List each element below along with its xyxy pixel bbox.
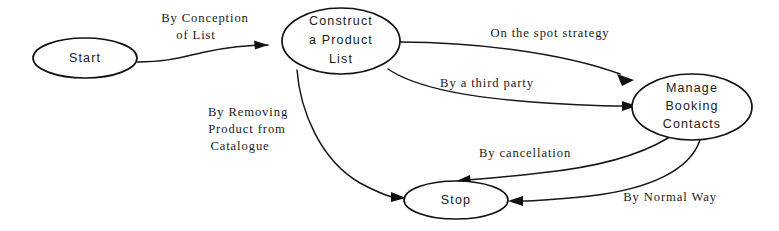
arrowhead-manage-to-stop-normal-way [508,196,523,206]
state-diagram-svg: By Conception of List On the spot strate… [0,0,779,231]
edge-label-by-cancellation: By cancellation [479,146,571,160]
edge-start-to-construct-path [137,45,268,62]
start-node[interactable]: Start [33,38,137,78]
edge-start-to-construct: By Conception of List [137,11,268,62]
edge-label-by-a-third-party: By a third party [440,76,534,90]
state-diagram-canvas: By Conception of List On the spot strate… [0,0,779,231]
edge-construct-to-stop-path [297,70,392,197]
edge-manage-to-stop-cancellation: By cancellation [454,138,668,186]
construct-product-list-label-line3: List [329,52,353,66]
manage-booking-contacts-label-line2: Booking [665,99,718,113]
construct-product-list-node[interactable]: Construct a Product List [282,8,400,74]
construct-product-list-label-line2: a Product [309,33,373,47]
edge-label-by-removing-line2: Product from [208,122,286,136]
edge-construct-to-manage-third-party: By a third party [388,69,637,111]
edge-label-by-normal-way: By Normal Way [623,190,717,204]
construct-product-list-label-line1: Construct [309,14,373,28]
manage-booking-contacts-label-line1: Manage [666,81,718,95]
stop-node-label: Stop [441,193,471,207]
edge-construct-to-manage-spot-path [400,42,620,74]
arrowhead-start-to-construct [254,41,268,50]
start-node-label: Start [69,51,101,65]
manage-booking-contacts-label-line3: Contacts [663,117,722,131]
edge-label-by-removing-line3: Catalogue [210,139,269,153]
edge-construct-to-stop-removing-product: By Removing Product from Catalogue [208,70,406,202]
stop-node[interactable]: Stop [404,181,508,219]
edge-label-on-the-spot-strategy: On the spot strategy [490,26,609,40]
manage-booking-contacts-node[interactable]: Manage Booking Contacts [632,74,752,140]
edge-label-start-to-construct-line1: By Conception [161,11,249,25]
arrowhead-construct-to-manage-spot [617,74,634,86]
edge-label-by-removing-line1: By Removing [208,105,288,119]
edge-label-start-to-construct-line2: of List [176,28,216,42]
